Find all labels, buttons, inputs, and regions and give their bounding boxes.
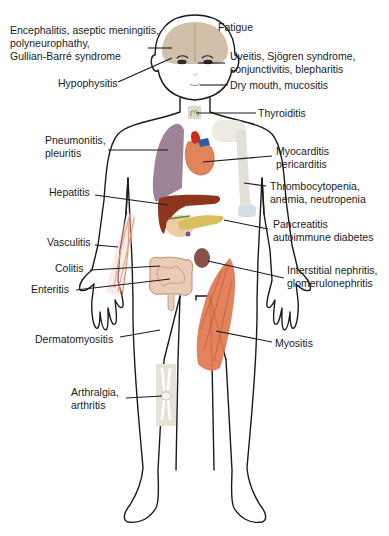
- label-joint: Arthralgia, arthritis: [71, 386, 119, 412]
- kidney-illustration: [194, 248, 210, 268]
- label-skin: Dermatomyositis: [35, 333, 113, 346]
- label-thyroid: Thyroiditis: [258, 107, 306, 120]
- intestine-illustration: [150, 257, 193, 311]
- label-blood: Thrombocytopenia, anemia, neutropenia: [270, 180, 366, 206]
- label-heart: Myocarditis pericarditis: [276, 145, 329, 171]
- label-pancreas: Pancreatitis autoimmune diabetes: [273, 218, 373, 244]
- label-lung: Pneumonitis, pleuritis: [45, 134, 106, 160]
- label-vessels: Vasculitis: [47, 236, 91, 249]
- label-neuro: Encephalitis, aseptic meningitis, polyne…: [10, 24, 159, 63]
- label-muscle: Myositis: [275, 337, 313, 350]
- bone-illustration: [212, 120, 256, 217]
- label-intestine: Enteritis: [31, 283, 69, 296]
- label-kidney: Interstitial nephritis, glomerulonephrit…: [287, 264, 377, 290]
- label-colon: Colitis: [55, 262, 84, 275]
- knee-illustration: [156, 364, 176, 426]
- heart-illustration: [185, 131, 214, 175]
- label-liver: Hepatitis: [49, 186, 90, 199]
- mouth-illustration: [190, 84, 200, 86]
- diagram-canvas: Encephalitis, aseptic meningitis, polyne…: [0, 0, 389, 536]
- lung-illustration: [153, 124, 184, 202]
- label-fatigue: Fatigue: [218, 21, 253, 34]
- pancreas-illustration: [166, 215, 224, 237]
- label-mouth: Dry mouth, mucositis: [230, 79, 328, 92]
- label-eye: Uveitis, Sjögren syndrome, conjunctiviti…: [230, 50, 355, 76]
- label-hypophysitis: Hypophysitis: [58, 77, 118, 90]
